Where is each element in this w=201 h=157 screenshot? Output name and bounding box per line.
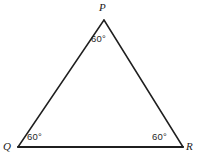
vertex-label-p: P — [99, 2, 106, 13]
angle-measure-q: 60° — [27, 132, 42, 142]
angle-measure-r: 60° — [152, 132, 167, 142]
geometry-figure: P Q R 60° 60° 60° — [0, 0, 201, 157]
triangle-side-pr — [104, 20, 183, 147]
vertex-label-r: R — [186, 141, 193, 152]
angle-measure-p: 60° — [91, 34, 106, 44]
vertex-label-q: Q — [3, 141, 11, 152]
